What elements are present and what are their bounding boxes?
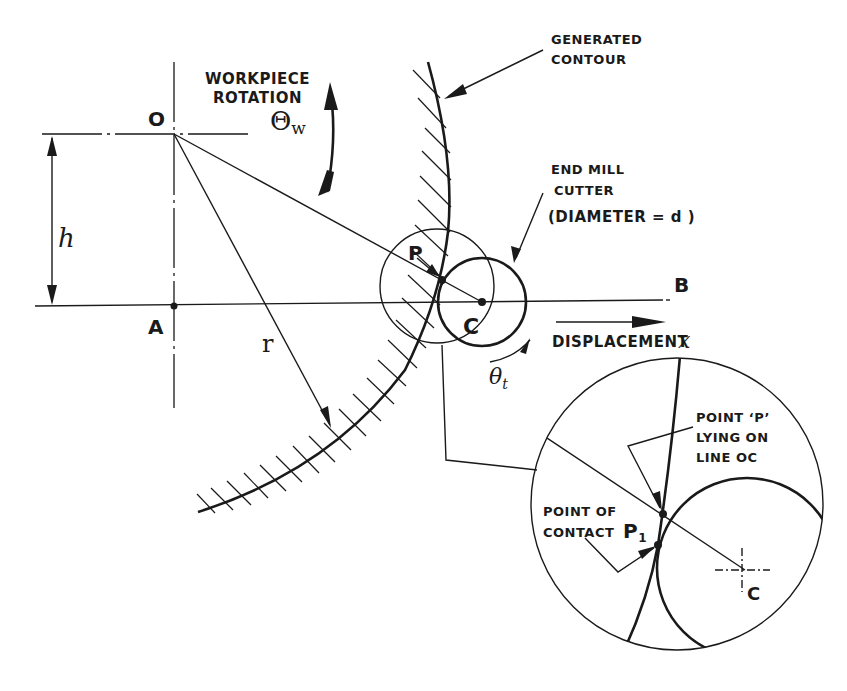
cutter-rotation-arrow-icon	[520, 338, 530, 354]
detail-point-p1-marker	[654, 541, 662, 549]
displacement-annotation: DISPLACEMENT x	[552, 316, 691, 353]
point-c-marker	[478, 298, 486, 306]
label-c: C	[463, 314, 480, 339]
arrow-up-icon	[47, 136, 57, 156]
arrow-down-icon	[47, 285, 57, 305]
detail-cutter-arc	[657, 478, 837, 658]
reference-axes	[35, 62, 670, 408]
symbol-theta-w: Θw	[270, 106, 306, 138]
label-a: A	[148, 315, 164, 339]
symbol-theta-t: θt	[489, 364, 508, 392]
label-o: O	[148, 107, 166, 131]
detail-contour-curve	[622, 356, 680, 655]
end-mill-contour-diagram: h r O A B WORKPIECE ROTATION Θw	[0, 0, 847, 691]
symbol-r: r	[262, 330, 274, 358]
rotation-tail-icon	[318, 170, 334, 196]
svg-text:WORKPIECE: WORKPIECE	[205, 70, 310, 88]
rotation-arrow-up-icon	[324, 82, 338, 110]
svg-text:(DIAMETER = d ): (DIAMETER = d )	[548, 208, 695, 226]
contour-hatching	[197, 70, 451, 513]
svg-text:POINT OF: POINT OF	[543, 504, 617, 519]
dimension-h: h	[47, 136, 75, 305]
svg-text:END MILL: END MILL	[551, 162, 624, 177]
point-p-marker	[438, 276, 446, 284]
contour-curve	[198, 62, 449, 512]
contour-leader-arrow-icon	[444, 84, 467, 99]
end-mill-leader-arrow-icon	[511, 246, 521, 263]
svg-text:CUTTER: CUTTER	[554, 183, 614, 198]
detail-point-p-marker	[659, 510, 667, 518]
svg-text:POINT ‘P’: POINT ‘P’	[696, 410, 770, 425]
displacement-arrow-icon	[632, 316, 666, 328]
svg-text:GENERATED: GENERATED	[551, 32, 642, 47]
svg-text:LYING ON: LYING ON	[696, 430, 769, 445]
cutter-assembly: C P θt END MILL CUTTER (DIAMETER = d )	[380, 162, 695, 392]
svg-text:CONTACT: CONTACT	[543, 525, 614, 540]
detail-label-c: C	[747, 583, 761, 604]
label-b: B	[674, 273, 690, 297]
svg-text:CONTOUR: CONTOUR	[551, 52, 626, 67]
workpiece-rotation-annotation: WORKPIECE ROTATION Θw	[205, 70, 338, 196]
symbol-h: h	[58, 223, 75, 253]
svg-text:ROTATION: ROTATION	[213, 89, 302, 107]
detail-p-arrow-icon	[652, 491, 662, 511]
detail-label-p1: P1	[623, 519, 647, 545]
svg-text:DISPLACEMENT: DISPLACEMENT	[552, 333, 688, 351]
line-ab	[35, 300, 663, 306]
point-a-marker	[171, 303, 178, 310]
radius-r-line	[174, 134, 330, 425]
magnified-detail-view: C POINT ‘P’ LYING ON LINE OC POINT OF CO…	[520, 356, 837, 658]
svg-text:LINE OC: LINE OC	[696, 450, 758, 465]
symbol-x: x	[678, 328, 691, 353]
